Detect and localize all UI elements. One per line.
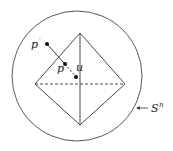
point-u [74,75,78,79]
label-sphere-sup: n [159,101,164,109]
label-p-prime: p [31,38,38,51]
arrowhead-icon [136,106,140,109]
edge-bottom-right [80,84,125,125]
projection-ray-dashed [65,64,76,77]
edge-top-left [35,33,80,84]
edge-top-right [80,33,125,84]
label-p: p [57,62,64,75]
diagram-canvas: p ′ p u S n [0,0,173,151]
label-p-prime-mark: ′ [39,37,41,45]
edge-bottom-left [35,84,80,125]
label-sphere: S [151,102,159,115]
label-u: u [76,61,83,74]
point-p-prime [45,42,49,46]
octahedron [35,33,125,125]
projection-ray-solid [47,44,65,64]
